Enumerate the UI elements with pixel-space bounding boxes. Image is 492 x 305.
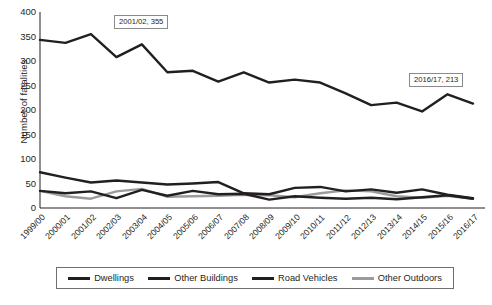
x-tick-label: 2003/04	[120, 212, 149, 241]
legend-item[interactable]: Other Outdoors	[352, 273, 442, 283]
y-tick-label: 150	[6, 130, 36, 140]
y-tick-label: 300	[6, 56, 36, 66]
legend-swatch-icon	[352, 277, 374, 280]
legend-item[interactable]: Road Vehicles	[252, 273, 337, 283]
x-tick-label: 2009/10	[273, 212, 302, 241]
x-tick-label: 2001/02	[69, 212, 98, 241]
fatalities-line-chart: Number of fatalities 0501001502002503003…	[0, 0, 492, 305]
y-tick-label: 250	[6, 81, 36, 91]
chart-legend: DwellingsOther BuildingsRoad VehiclesOth…	[56, 267, 454, 289]
y-tick-label: 350	[6, 32, 36, 42]
plot-area	[40, 12, 485, 208]
y-tick-label: 200	[6, 105, 36, 115]
legend-swatch-icon	[68, 277, 90, 280]
legend-item[interactable]: Dwellings	[68, 273, 134, 283]
x-tick-label: 2006/07	[196, 212, 225, 241]
legend-label: Road Vehicles	[278, 273, 337, 283]
legend-item[interactable]: Other Buildings	[148, 273, 238, 283]
x-tick-label: 2000/01	[43, 212, 72, 241]
legend-swatch-icon	[148, 277, 170, 280]
x-tick-label: 2011/12	[324, 212, 353, 241]
y-tick-label: 50	[6, 179, 36, 189]
x-tick-label: 2002/03	[94, 212, 123, 241]
x-tick-label: 2007/08	[222, 212, 251, 241]
x-tick-label: 2004/05	[145, 212, 174, 241]
x-tick-label: 2008/09	[247, 212, 276, 241]
x-tick-label: 2010/11	[298, 212, 327, 241]
x-axis-tick-labels: 1999/002000/012001/022002/032003/042004/…	[0, 208, 492, 264]
y-tick-label: 400	[6, 7, 36, 17]
legend-swatch-icon	[252, 277, 274, 280]
y-tick-label: 100	[6, 154, 36, 164]
annotation-peak: 2001/02, 355	[114, 15, 168, 29]
x-tick-label: 2015/16	[426, 212, 455, 241]
x-tick-label: 2014/15	[400, 212, 429, 241]
legend-label: Dwellings	[94, 273, 134, 283]
legend-label: Other Buildings	[174, 273, 238, 283]
plot-svg	[40, 12, 485, 208]
x-tick-label: 1999/00	[18, 212, 47, 241]
x-tick-label: 2013/14	[375, 212, 404, 241]
x-tick-label: 2016/17	[451, 212, 480, 241]
legend-label: Other Outdoors	[378, 273, 442, 283]
x-tick-label: 2012/13	[349, 212, 378, 241]
x-tick-label: 2005/06	[171, 212, 200, 241]
annotation-last: 2016/17, 213	[409, 73, 463, 87]
